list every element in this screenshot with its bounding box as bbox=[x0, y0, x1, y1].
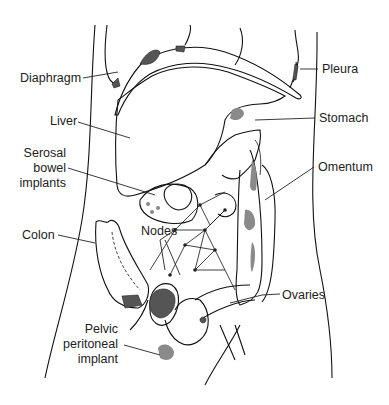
liver-implant bbox=[230, 108, 244, 120]
label-pelvic-2: peritoneal bbox=[50, 337, 118, 351]
label-serosal-3: implants bbox=[10, 176, 66, 190]
label-stomach: Stomach bbox=[319, 111, 368, 125]
anatomy-diagram: Diaphragm Pleura Liver Stomach Serosal b… bbox=[0, 0, 389, 405]
label-omentum: Omentum bbox=[318, 160, 373, 174]
pelvic-mass bbox=[149, 289, 175, 318]
lymph-node-network bbox=[150, 192, 235, 290]
label-pelvic-3: implant bbox=[60, 352, 118, 366]
label-pelvic-1: Pelvic bbox=[60, 322, 118, 336]
label-nodes: Nodes bbox=[141, 224, 177, 238]
label-serosal-1: Serosal bbox=[22, 146, 66, 160]
liver bbox=[116, 67, 285, 196]
label-serosal-2: bowel bbox=[22, 161, 66, 175]
label-diaphragm: Diaphragm bbox=[20, 71, 81, 85]
label-pleura: Pleura bbox=[322, 62, 358, 76]
label-ovaries: Ovaries bbox=[282, 288, 325, 302]
ovary-implant bbox=[200, 317, 206, 323]
pleura-implant bbox=[293, 64, 298, 80]
body-outline-right bbox=[313, 32, 332, 378]
label-colon: Colon bbox=[22, 228, 55, 242]
diaphragm-implant bbox=[140, 50, 160, 64]
label-liver: Liver bbox=[50, 114, 77, 128]
pelvic-implant bbox=[158, 345, 174, 360]
